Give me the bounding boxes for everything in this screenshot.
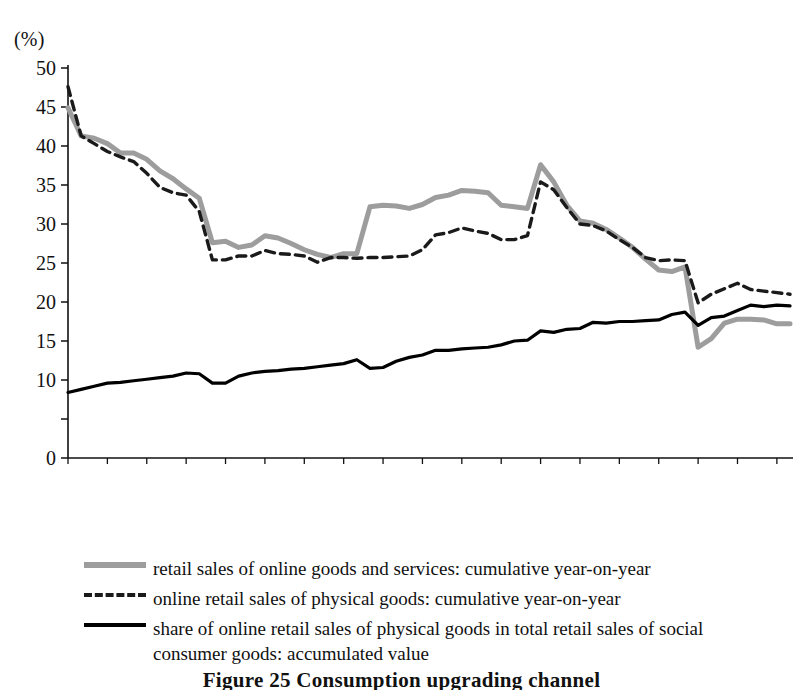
y-axis-tick-label: 35	[36, 174, 56, 196]
y-axis-tick-label: 45	[36, 96, 56, 118]
y-axis-tick-label: 20	[36, 291, 56, 313]
y-axis-tick-label: 10	[36, 369, 56, 391]
series-line-2	[68, 305, 790, 392]
legend-item-physical-goods: online retail sales of physical goods: c…	[84, 586, 784, 611]
line-chart-svg: 50454035302520151002015-22015-52015-8201…	[0, 0, 803, 470]
legend-label-share-line2: consumer goods: accumulated value	[153, 641, 703, 666]
legend-marker-solid-black-line	[84, 616, 146, 634]
y-axis-tick-label: 0	[46, 447, 56, 469]
figure-caption: Figure 25 Consumption upgrading channel	[0, 668, 803, 690]
legend-marker-dashed-black-line	[84, 586, 146, 604]
chart-legend: retail sales of online goods and service…	[84, 556, 784, 671]
chart-plot-area: 50454035302520151002015-22015-52015-8201…	[0, 0, 803, 470]
legend-item-share-of-physical-goods: share of online retail sales of physical…	[84, 616, 784, 666]
legend-marker-solid-gray-line	[84, 556, 146, 574]
figure-root: (%) 50454035302520151002015-22015-52015-…	[0, 0, 803, 690]
y-axis-tick-label: 30	[36, 213, 56, 235]
y-axis-tick-label: 50	[36, 57, 56, 79]
legend-label-online-goods-services: retail sales of online goods and service…	[153, 556, 651, 581]
legend-label-share-of-physical-goods: share of online retail sales of physical…	[153, 616, 703, 666]
y-axis-tick-label: 40	[36, 135, 56, 157]
y-axis-tick-label: 25	[36, 252, 56, 274]
legend-label-physical-goods: online retail sales of physical goods: c…	[153, 586, 621, 611]
y-axis-tick-label: 15	[36, 330, 56, 352]
legend-item-online-goods-services: retail sales of online goods and service…	[84, 556, 784, 581]
legend-label-share-line1: share of online retail sales of physical…	[153, 618, 703, 639]
